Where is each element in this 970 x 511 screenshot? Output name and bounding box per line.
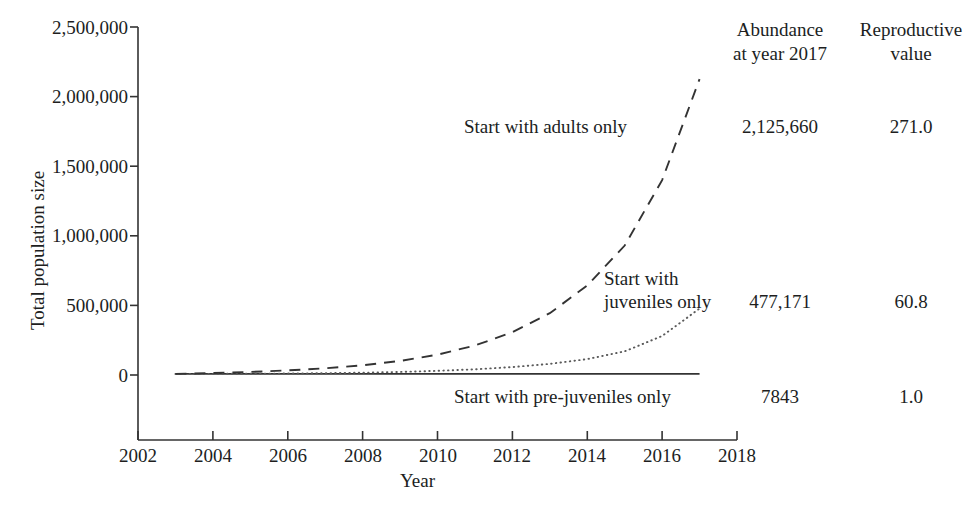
table-row-adults-reproductive-value: 271.0 — [852, 116, 970, 138]
annotation-juveniles-line2: juveniles only — [604, 291, 711, 313]
y-axis-title: Total population size — [27, 171, 49, 330]
y-tick-label-2000000: 2,000,000 — [10, 87, 128, 106]
x-tick-label-2012: 2012 — [472, 446, 552, 465]
x-tick-label-2014: 2014 — [547, 446, 627, 465]
x-tick-label-2004: 2004 — [173, 446, 253, 465]
x-tick-label-2016: 2016 — [622, 446, 702, 465]
x-tick-label-2008: 2008 — [323, 446, 403, 465]
table-row-juveniles-reproductive-value: 60.8 — [852, 291, 970, 313]
curve-start-with-juveniles-only — [175, 309, 699, 374]
y-tick-label-2500000: 2,500,000 — [10, 18, 128, 37]
annotation-juveniles-line1: Start with — [604, 268, 678, 290]
x-tick-label-2006: 2006 — [248, 446, 328, 465]
table-row-adults-abundance: 2,125,660 — [716, 116, 844, 138]
y-axis-ticks — [130, 27, 138, 375]
x-tick-label-2010: 2010 — [398, 446, 478, 465]
table-header-reproductive-line1: Reproductive — [852, 18, 970, 41]
population-growth-figure: 2,500,000 2,000,000 1,500,000 1,000,000 … — [0, 0, 970, 511]
x-tick-label-2018: 2018 — [697, 446, 777, 465]
annotation-pre-juveniles: Start with pre-juveniles only — [454, 386, 671, 408]
annotation-adults: Start with adults only — [464, 116, 627, 138]
x-axis-ticks — [138, 431, 737, 440]
table-row-juveniles-abundance: 477,171 — [716, 291, 844, 313]
table-header-abundance-line1: Abundance — [716, 18, 844, 41]
table-row-pre-juveniles-reproductive-value: 1.0 — [852, 386, 970, 408]
y-tick-label-0: 0 — [10, 366, 128, 385]
x-axis-title: Year — [400, 470, 435, 492]
table-header-reproductive-line2: value — [852, 42, 970, 65]
x-tick-label-2002: 2002 — [98, 446, 178, 465]
chart-canvas — [0, 0, 970, 511]
table-header-abundance-line2: at year 2017 — [716, 42, 844, 65]
table-row-pre-juveniles-abundance: 7843 — [716, 386, 844, 408]
